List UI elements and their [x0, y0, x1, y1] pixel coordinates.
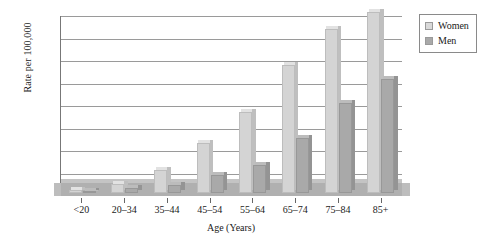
- legend-swatch-women-icon: [425, 22, 433, 30]
- x-axis-tick-mark: [295, 198, 296, 203]
- x-axis-title: Age (Years): [60, 222, 402, 233]
- bar-men-6: [339, 103, 352, 193]
- bar-women-5: [282, 65, 295, 193]
- legend-label-women: Women: [438, 19, 469, 34]
- bar-side-face: [352, 100, 356, 190]
- bar-group: [61, 16, 104, 196]
- bar-front-face: [325, 29, 338, 193]
- bar-group: [146, 16, 189, 196]
- bar-men-0: [83, 191, 96, 193]
- bar-side-face: [138, 185, 142, 190]
- bar-front-face: [154, 170, 167, 193]
- x-axis-tick: 55–64: [231, 204, 274, 215]
- x-axis-tick: 75–84: [317, 204, 360, 215]
- chart-figure: Rate per 100,000 0510152025303540 <2020–…: [0, 0, 503, 246]
- floor-right-edge: [401, 183, 410, 197]
- bar-men-5: [296, 138, 309, 193]
- bar-women-7: [367, 12, 380, 193]
- bar-front-face: [282, 65, 295, 193]
- legend-label-men: Men: [438, 34, 456, 49]
- bar-men-1: [125, 188, 138, 193]
- x-axis-tick: 85+: [359, 204, 402, 215]
- bar-front-face: [197, 143, 210, 193]
- bar-women-0: [69, 190, 82, 193]
- legend-item-men: Men: [425, 34, 469, 49]
- bar-front-face: [83, 191, 96, 193]
- bar-men-2: [168, 185, 181, 193]
- bar-women-3: [197, 143, 210, 193]
- bar-group: [317, 16, 360, 196]
- x-axis-tick-mark: [210, 198, 211, 203]
- x-axis-tick-mark: [81, 198, 82, 203]
- bar-groups: [61, 16, 402, 196]
- bar-side-face: [309, 135, 313, 190]
- bar-women-6: [325, 29, 338, 193]
- bar-side-face: [96, 188, 100, 190]
- x-axis-tick: 35–44: [146, 204, 189, 215]
- legend-swatch-men-icon: [425, 37, 433, 45]
- bar-women-4: [239, 112, 252, 193]
- bar-front-face: [339, 103, 352, 193]
- x-axis-tick: 45–54: [188, 204, 231, 215]
- x-axis-tick-mark: [338, 198, 339, 203]
- legend: Women Men: [419, 14, 477, 53]
- bar-group: [274, 16, 317, 196]
- bar-front-face: [211, 175, 224, 193]
- bar-men-7: [381, 79, 394, 193]
- bar-men-3: [211, 175, 224, 193]
- x-axis-tick-mark: [252, 198, 253, 203]
- bar-front-face: [125, 188, 138, 193]
- bar-front-face: [381, 79, 394, 193]
- bar-side-face: [224, 172, 228, 190]
- legend-item-women: Women: [425, 19, 469, 34]
- bar-side-face: [394, 76, 398, 190]
- x-axis-tick: 20–34: [103, 204, 146, 215]
- bar-women-2: [154, 170, 167, 193]
- x-axis-tick-labels: <2020–3435–4445–5455–6465–7475–8485+: [60, 204, 402, 215]
- bar-group: [232, 16, 275, 196]
- bar-group: [104, 16, 147, 196]
- plot-area: [60, 16, 402, 196]
- bar-front-face: [253, 165, 266, 193]
- x-axis-tick: 65–74: [274, 204, 317, 215]
- bar-side-face: [181, 182, 185, 190]
- bar-front-face: [168, 185, 181, 193]
- x-axis-tick-mark: [381, 198, 382, 203]
- bar-group: [189, 16, 232, 196]
- bar-front-face: [367, 12, 380, 193]
- x-axis-tick: <20: [60, 204, 103, 215]
- bar-front-face: [111, 184, 124, 193]
- bar-side-face: [266, 162, 270, 190]
- bar-women-1: [111, 184, 124, 193]
- bar-front-face: [69, 190, 82, 193]
- bar-group: [359, 16, 402, 196]
- y-axis-title: Rate per 100,000: [22, 0, 33, 133]
- bar-front-face: [239, 112, 252, 193]
- x-axis-tick-mark: [167, 198, 168, 203]
- bar-men-4: [253, 165, 266, 193]
- x-axis-tick-mark: [124, 198, 125, 203]
- bar-front-face: [296, 138, 309, 193]
